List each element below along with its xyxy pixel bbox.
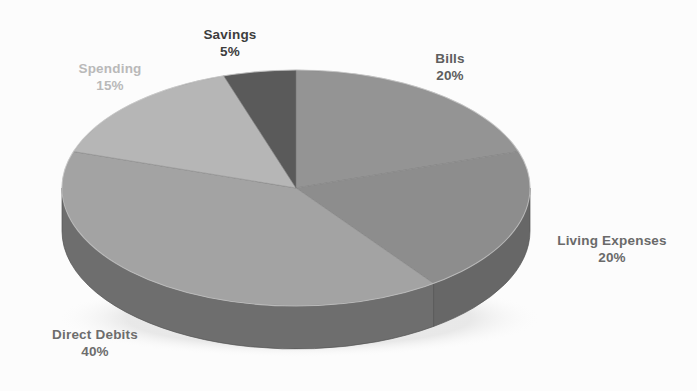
pie-label-spending: Spending 15% <box>30 60 190 95</box>
pie-chart-figure: Savings 5% Spending 15% Bills 20% Living… <box>0 0 697 391</box>
pie-label-bills-value: 20% <box>380 67 520 84</box>
pie-label-savings: Savings 5% <box>150 26 310 61</box>
pie-label-spending-value: 15% <box>30 77 190 94</box>
pie-label-bills-name: Bills <box>380 50 520 67</box>
pie-label-living-expenses: Living Expenses 20% <box>528 232 696 267</box>
pie-label-direct-debits-name: Direct Debits <box>6 326 184 343</box>
pie-label-savings-value: 5% <box>150 43 310 60</box>
pie-label-living-expenses-name: Living Expenses <box>528 232 696 249</box>
pie-label-spending-name: Spending <box>30 60 190 77</box>
pie-label-bills: Bills 20% <box>380 50 520 85</box>
pie-label-direct-debits: Direct Debits 40% <box>6 326 184 361</box>
pie-label-savings-name: Savings <box>150 26 310 43</box>
pie-label-direct-debits-value: 40% <box>6 343 184 360</box>
pie-label-living-expenses-value: 20% <box>528 249 696 266</box>
